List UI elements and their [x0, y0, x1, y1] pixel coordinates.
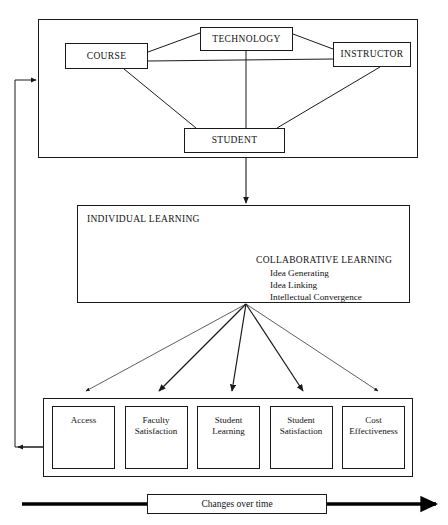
outcome-label: Faculty Satisfaction — [135, 415, 178, 438]
diagram-canvas: COURSE TECHNOLOGY INSTRUCTOR STUDENT IND… — [0, 0, 448, 525]
node-course-label: COURSE — [87, 51, 127, 62]
collaborative-item: Idea Generating — [256, 267, 392, 279]
node-student-label: STUDENT — [212, 135, 258, 146]
node-technology-label: TECHNOLOGY — [212, 34, 280, 45]
outcome-student-learning[interactable]: Student Learning — [197, 406, 260, 469]
collaborative-learning-label: COLLABORATIVE LEARNING — [256, 254, 392, 267]
outcomes-row: Access Faculty Satisfaction Student Lear… — [52, 406, 405, 469]
node-course[interactable]: COURSE — [65, 43, 148, 69]
node-student[interactable]: STUDENT — [184, 128, 285, 153]
arrow-to-cost-effectiveness — [246, 304, 378, 391]
collaborative-item: Idea Linking — [256, 279, 392, 291]
outcome-label: Student Satisfaction — [280, 415, 323, 438]
timeline-label-box: Changes over time — [147, 494, 327, 514]
arrow-to-student-learning — [232, 304, 246, 391]
outcome-faculty-satisfaction[interactable]: Faculty Satisfaction — [125, 406, 188, 469]
node-instructor-label: INSTRUCTOR — [341, 49, 404, 60]
outcome-label: Student Learning — [212, 415, 244, 438]
arrow-to-access — [86, 304, 246, 391]
outcome-student-satisfaction[interactable]: Student Satisfaction — [270, 406, 333, 469]
timeline-label: Changes over time — [201, 499, 272, 509]
outcome-cost-effectiveness[interactable]: Cost Effectiveness — [342, 406, 405, 469]
arrow-to-faculty-satisfaction — [159, 304, 246, 391]
node-technology[interactable]: TECHNOLOGY — [200, 27, 293, 51]
outcome-label: Cost Effectiveness — [349, 415, 397, 438]
arrow-to-student-satisfaction — [246, 304, 303, 391]
learning-band: INDIVIDUAL LEARNING COLLABORATIVE LEARNI… — [77, 205, 410, 303]
individual-learning-label: INDIVIDUAL LEARNING — [87, 214, 200, 224]
collaborative-item: Intellectual Convergence — [256, 291, 392, 303]
outcome-label: Access — [71, 415, 97, 426]
node-instructor[interactable]: INSTRUCTOR — [333, 42, 411, 67]
collaborative-learning-block: COLLABORATIVE LEARNING Idea Generating I… — [256, 254, 392, 303]
outcome-access[interactable]: Access — [52, 406, 115, 469]
